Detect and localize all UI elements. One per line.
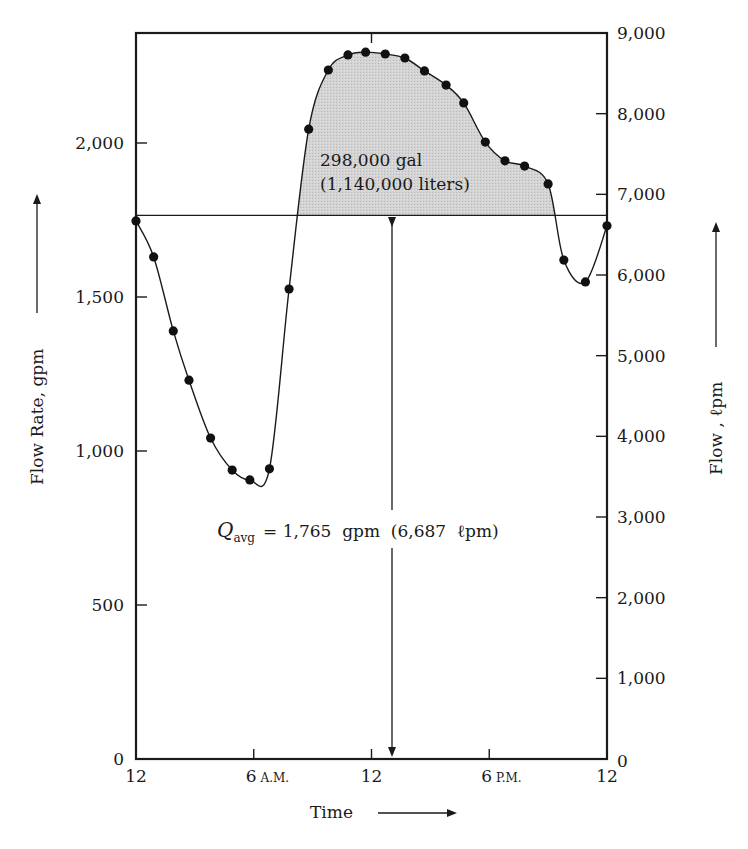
data-point [265, 464, 274, 473]
left-tick-label: 1,500 [75, 287, 124, 307]
x-tick-label: 6A.M. [246, 766, 289, 786]
data-point [581, 277, 590, 286]
right-tick-label: 3,000 [617, 507, 666, 527]
data-point [544, 179, 553, 188]
data-point [131, 216, 140, 225]
right-tick-label: 8,000 [617, 104, 666, 124]
right-tick-label: 5,000 [617, 346, 666, 366]
data-point [559, 255, 568, 264]
left-tick-label: 1,000 [75, 441, 124, 461]
data-point [481, 137, 490, 146]
data-point [343, 50, 352, 59]
right-axis-label: Flow , ℓpm [706, 382, 726, 475]
average-flow-annotation: Qavg= 1,765 gpm (6,687 ℓpm) [217, 518, 499, 545]
data-point [324, 65, 333, 74]
q-symbol: Q [217, 518, 233, 542]
data-point [520, 162, 529, 171]
data-point [420, 66, 429, 75]
left-tick-label: 500 [92, 595, 124, 615]
data-point [459, 98, 468, 107]
x-axis-label: Time [310, 802, 353, 822]
x-axis-title: Time [310, 802, 452, 822]
data-point [284, 284, 293, 293]
right-tick-label: 0 [617, 751, 628, 771]
left-axis-label: Flow Rate, gpm [27, 349, 47, 485]
x-tick-label: 12 [596, 766, 618, 786]
x-tick-label: 12 [361, 766, 383, 786]
left-tick-label: 0 [113, 749, 124, 769]
data-point [441, 80, 450, 89]
left-tick-label: 2,000 [75, 133, 124, 153]
data-point [304, 125, 313, 134]
data-point [381, 49, 390, 58]
data-point [228, 465, 237, 474]
data-point [361, 48, 370, 57]
right-tick-label: 6,000 [617, 265, 666, 285]
area-volume-liters: (1,140,000 liters) [320, 174, 470, 194]
right-tick-label: 2,000 [617, 588, 666, 608]
data-point [245, 475, 254, 484]
left-axis-title: Flow Rate, gpm [27, 199, 47, 485]
data-point [169, 326, 178, 335]
right-tick-label: 4,000 [617, 426, 666, 446]
right-tick-label: 1,000 [617, 668, 666, 688]
x-tick-label: 6P.M. [481, 766, 521, 786]
data-point [206, 433, 215, 442]
data-point [184, 376, 193, 385]
x-tick-label: 12 [125, 766, 147, 786]
flow-rate-chart: 05001,0001,5002,000 01,0002,0003,0004,00… [0, 0, 748, 849]
right-tick-label: 9,000 [617, 23, 666, 43]
data-point [602, 221, 611, 230]
avg-value: = 1,765 gpm (6,687 ℓpm) [263, 521, 499, 541]
data-point [500, 156, 509, 165]
right-tick-label: 7,000 [617, 184, 666, 204]
data-point [149, 252, 158, 261]
right-axis-title: Flow , ℓpm [706, 227, 726, 475]
data-point [400, 53, 409, 62]
area-volume-gal: 298,000 gal [320, 150, 422, 170]
avg-subscript: avg [233, 531, 255, 545]
